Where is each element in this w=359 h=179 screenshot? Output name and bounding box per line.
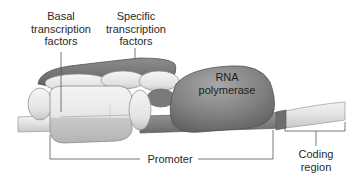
specific-transcription-factors-label: Specific transcription factors [103, 10, 169, 48]
promoter-label: Promoter [144, 153, 196, 166]
rna-polymerase-label: RNA polymerase [195, 71, 259, 96]
transcription-initiation-diagram: Basal transcription factors Specific tra… [0, 0, 359, 179]
dna-coding [285, 102, 345, 128]
basal-factor-shape [50, 86, 132, 143]
promoter-bracket-right [198, 130, 273, 159]
basal-transcription-factors-label: Basal transcription factors [28, 10, 94, 48]
coding-region-label: Coding region [292, 148, 340, 173]
